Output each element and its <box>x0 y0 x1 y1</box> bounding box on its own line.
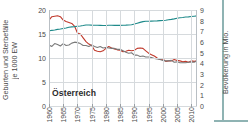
x-tick-label: 2010 <box>188 107 195 123</box>
right-y-tick-label: 6 <box>200 39 212 46</box>
x-tick-label: 1975 <box>89 107 96 123</box>
x-tick-label: 1965 <box>60 107 67 123</box>
left-y-tick-label: 20 <box>32 7 46 14</box>
x-tick-label: 1995 <box>146 107 153 123</box>
x-tick-label: 1960 <box>46 107 53 123</box>
x-tick-label: 2005 <box>174 107 181 123</box>
vertical-gridline <box>149 10 150 106</box>
vertical-gridline <box>177 10 178 106</box>
horizontal-gridline <box>49 10 197 11</box>
country-label: Österreich <box>52 88 96 98</box>
right-y-tick-label: 3 <box>200 71 212 78</box>
right-y-tick-label: 1 <box>200 92 212 99</box>
chart-figure: Geburten und Sterbefälle je 1000 EW Bevö… <box>0 0 248 135</box>
series-line <box>49 16 197 63</box>
horizontal-gridline <box>49 34 197 35</box>
vertical-gridline <box>163 10 164 106</box>
right-y-tick-label: 2 <box>200 82 212 89</box>
right-y-tick-label: 7 <box>200 28 212 35</box>
right-axis-ticks: 9876543210 <box>200 10 212 106</box>
right-y-tick-label: 9 <box>200 7 212 14</box>
x-tick-label: 1990 <box>131 107 138 123</box>
plot-right-border <box>196 10 197 106</box>
right-y-tick-label: 8 <box>200 18 212 25</box>
x-tick-label: 2000 <box>160 107 167 123</box>
x-tick-label: 1985 <box>117 107 124 123</box>
left-axis-title: Geburten und Sterbefälle je 1000 EW <box>2 8 19 112</box>
right-y-tick-label: 0 <box>200 103 212 110</box>
right-y-tick-label: 4 <box>200 60 212 67</box>
left-y-tick-label: 5 <box>32 79 46 86</box>
x-axis-ticks: 1960196519701975198019851990199520002005… <box>49 107 197 135</box>
horizontal-gridline <box>49 58 197 59</box>
vertical-gridline <box>134 10 135 106</box>
vertical-gridline <box>120 10 121 106</box>
left-axis-ticks: 20151050 <box>31 10 46 106</box>
vertical-gridline <box>106 10 107 106</box>
horizontal-gridline <box>49 82 197 83</box>
left-axis-title-line2: je 1000 EW <box>10 41 19 78</box>
vertical-gridline <box>191 10 192 106</box>
left-y-tick-label: 10 <box>32 55 46 62</box>
decorative-frame-bottom-line <box>214 120 248 122</box>
plot-left-border <box>49 10 50 106</box>
x-tick-label: 1970 <box>74 107 81 123</box>
left-y-tick-label: 0 <box>32 103 46 110</box>
right-y-tick-label: 5 <box>200 50 212 57</box>
left-y-tick-label: 15 <box>32 31 46 38</box>
x-tick-label: 1980 <box>103 107 110 123</box>
right-axis-title: Bevölkerung in Mio. <box>222 14 231 110</box>
